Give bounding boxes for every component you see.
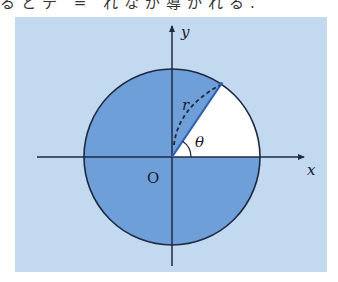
polar-diagram [0, 0, 338, 282]
point-on-circle [219, 82, 223, 86]
